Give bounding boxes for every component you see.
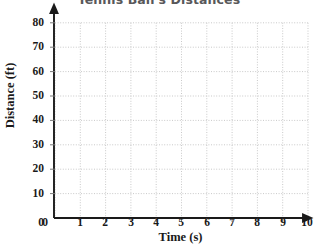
x-tick-label-0: 0	[35, 216, 55, 228]
x-tick-label-5: 5	[171, 216, 191, 228]
y-tick-label-20: 20	[18, 162, 44, 174]
x-tick-label-7: 7	[222, 216, 242, 228]
x-tick-label-8: 8	[247, 216, 267, 228]
y-tick-label-10: 10	[18, 187, 44, 199]
x-tick-label-3: 3	[121, 216, 141, 228]
x-tick-label-1: 1	[70, 216, 90, 228]
plot-area	[0, 0, 318, 249]
grid-lines-vertical	[55, 23, 308, 218]
y-axis-title: Distance (ft)	[3, 36, 18, 156]
x-tick-label-4: 4	[146, 216, 166, 228]
y-tick-label-50: 50	[18, 89, 44, 101]
x-axis-title: Time (s)	[53, 230, 308, 245]
x-tick-label-10: 10	[297, 216, 317, 228]
y-tick-label-60: 60	[18, 65, 44, 77]
chart-container: Tennis Ball's Distances	[0, 0, 318, 249]
y-tick-label-40: 40	[18, 113, 44, 125]
x-tick-label-9: 9	[273, 216, 293, 228]
x-tick-label-2: 2	[95, 216, 115, 228]
x-tick-label-6: 6	[197, 216, 217, 228]
y-tick-label-30: 30	[18, 138, 44, 150]
y-tick-label-70: 70	[18, 40, 44, 52]
y-tick-label-80: 80	[18, 16, 44, 28]
